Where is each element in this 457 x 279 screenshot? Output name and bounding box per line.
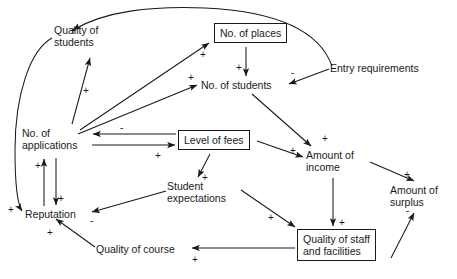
node-no-of-students[interactable]: No. of students [201,79,272,91]
polarity-sign: - [120,123,123,133]
node-student-expectations[interactable]: Student expectations [167,180,226,204]
node-quality-of-course[interactable]: Quality of course [96,243,175,255]
link-student-expectations-to-reputation [92,191,166,212]
link-no-of-students-to-amount-of-income [252,94,311,146]
causal-loop-diagram: Quality of students No. of places Entry … [0,0,457,279]
node-level-of-fees[interactable]: Level of fees [178,130,250,150]
polarity-sign: - [291,68,294,78]
polarity-sign: + [83,86,89,96]
polarity-sign: + [236,63,242,73]
node-amount-of-income[interactable]: Amount of income [306,149,354,173]
node-reputation[interactable]: Reputation [25,208,76,220]
polarity-sign: + [202,173,208,183]
polarity-sign: - [90,216,93,226]
node-quality-of-staff-and-facilities[interactable]: Quality of staff and facilities [297,229,376,261]
link-entry-requirements-to-no-of-students [289,69,329,84]
polarity-sign: + [339,218,345,228]
polarity-sign: + [70,26,76,36]
polarity-sign: + [47,228,53,238]
node-quality-of-students[interactable]: Quality of students [54,24,98,48]
link-no-of-applications-to-no-of-students [78,85,197,134]
polarity-sign: + [200,50,206,60]
polarity-sign: + [58,194,64,204]
polarity-sign: + [188,73,194,83]
node-entry-requirements[interactable]: Entry requirements [330,62,419,74]
polarity-sign: - [406,206,409,216]
polarity-sign: + [404,170,410,180]
polarity-sign: + [155,151,161,161]
link-no-of-applications-to-no-of-places [80,43,209,130]
polarity-sign: + [8,205,14,215]
polarity-sign: + [268,213,274,223]
link-quality-of-students-to-reputation [15,38,52,211]
polarity-sign: + [322,134,328,144]
node-no-of-applications[interactable]: No. of applications [22,127,77,151]
polarity-sign: + [290,146,296,156]
link-level-of-fees-to-amount-of-income [257,141,303,157]
node-amount-of-surplus[interactable]: Amount of surplus [390,184,438,208]
link-quality-of-staff-to-amount-of-surplus [391,213,414,258]
node-no-of-places[interactable]: No. of places [214,23,287,43]
polarity-sign: + [192,255,198,265]
polarity-sign: + [35,161,41,171]
